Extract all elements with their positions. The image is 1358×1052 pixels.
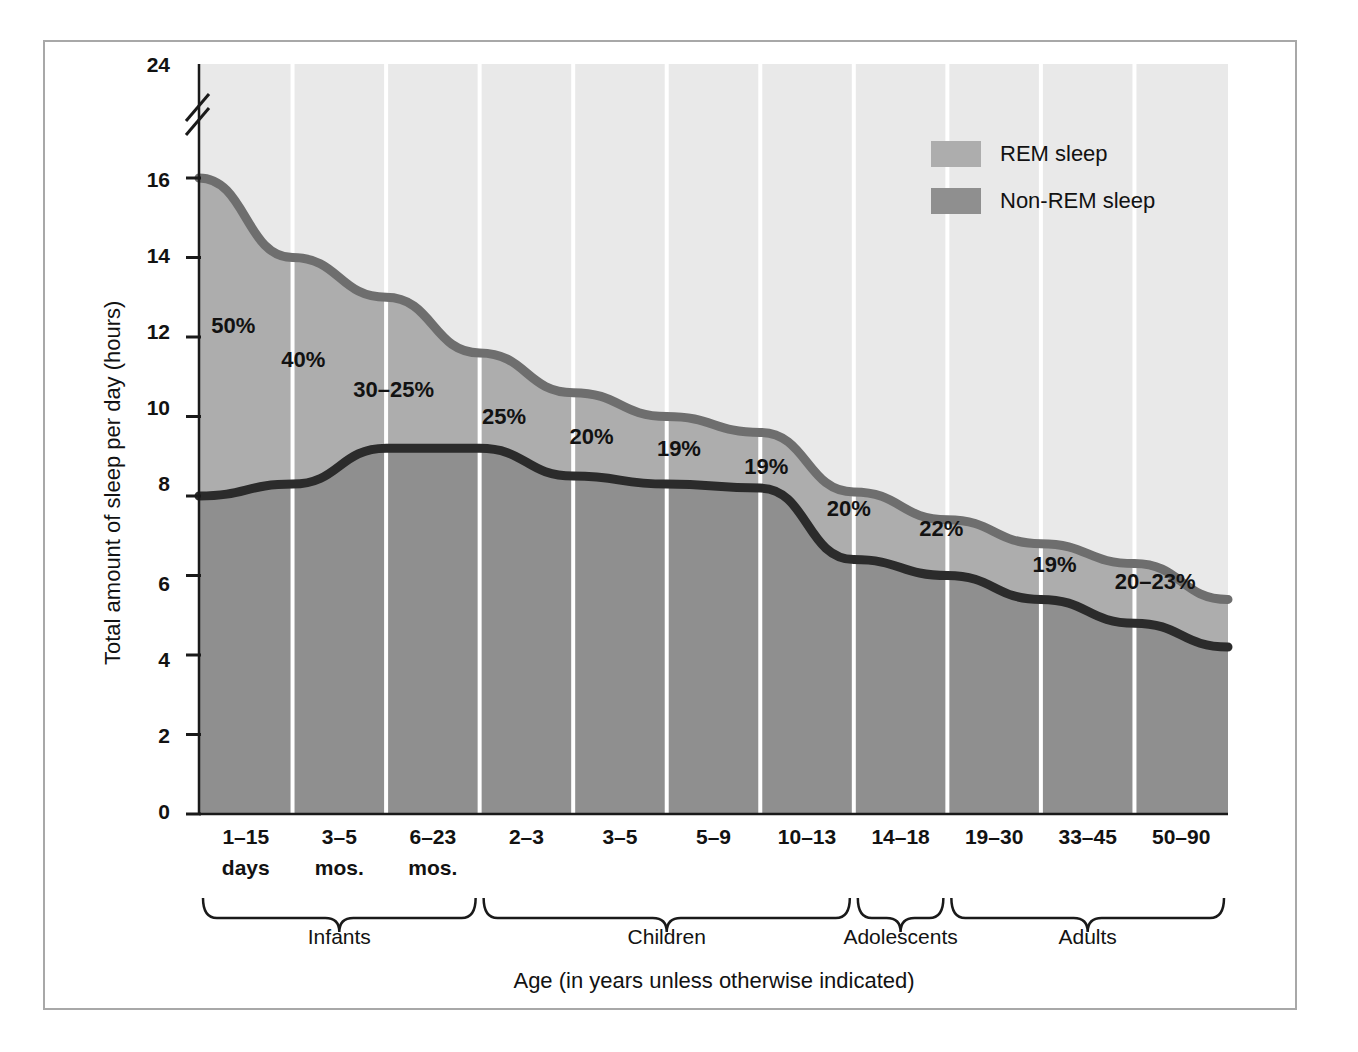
percentage-annotation: 30–25%	[353, 377, 434, 403]
percentage-annotation: 25%	[482, 404, 526, 430]
legend-swatch-non-rem	[931, 188, 981, 214]
percentage-annotation: 22%	[919, 516, 963, 542]
percentage-annotation: 40%	[281, 347, 325, 373]
group-label: Infants	[229, 925, 449, 949]
x-axis-title: Age (in years unless otherwise indicated…	[399, 968, 1029, 994]
legend-swatch-rem	[931, 141, 981, 167]
x-tick-label-sub: mos.	[373, 856, 493, 880]
chart-svg	[0, 0, 1358, 1052]
group-label: Children	[557, 925, 777, 949]
y-tick-label-10: 10	[120, 396, 170, 420]
legend-label-rem: REM sleep	[1000, 141, 1108, 167]
y-tick-label-8: 8	[120, 472, 170, 496]
percentage-annotation: 50%	[211, 313, 255, 339]
legend-label-non-rem: Non-REM sleep	[1000, 188, 1155, 214]
percentage-annotation: 20–23%	[1115, 569, 1196, 595]
percentage-annotation: 20%	[827, 496, 871, 522]
y-tick-label-4: 4	[120, 648, 170, 672]
y-tick-label-16: 16	[120, 168, 170, 192]
percentage-annotation: 19%	[744, 454, 788, 480]
y-tick-label-6: 6	[120, 572, 170, 596]
x-tick-label: 50–90	[1121, 825, 1241, 849]
y-tick-label-2: 2	[120, 724, 170, 748]
y-tick-label-14: 14	[120, 244, 170, 268]
percentage-annotation: 20%	[569, 424, 613, 450]
y-tick-label-24: 24	[120, 53, 170, 77]
percentage-annotation: 19%	[657, 436, 701, 462]
y-tick-label-12: 12	[120, 320, 170, 344]
figure-root: Total amount of sleep per day (hours) 24…	[0, 0, 1358, 1052]
group-label: Adults	[978, 925, 1198, 949]
percentage-annotation: 19%	[1032, 552, 1076, 578]
y-tick-label-0: 0	[120, 800, 170, 824]
